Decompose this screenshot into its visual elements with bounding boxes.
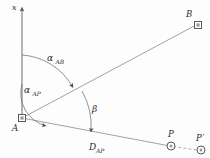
point-label-A: A <box>11 123 18 133</box>
angle-label-alpha-AB-symbol: α <box>47 53 53 63</box>
point-label-P-prime-base: P <box>195 133 202 143</box>
point-marker-P <box>167 142 175 150</box>
point-label-B: B <box>185 9 192 19</box>
distance-label-D-AP-subscript: AP <box>95 147 105 154</box>
point-label-P: P <box>167 129 174 139</box>
angle-label-alpha-AP-symbol: α <box>24 85 30 95</box>
figure-background <box>0 0 210 158</box>
angle-label-alpha-AP-subscript: AP <box>32 90 42 97</box>
point-marker-A <box>19 115 26 122</box>
point-marker-P-prime <box>197 146 205 154</box>
geometry-figure: x A B P P ′ α AB α AP β D AP <box>0 0 210 158</box>
point-marker-B <box>195 22 202 29</box>
diagram-canvas: x A B P P ′ α AB α AP β D AP <box>0 0 210 158</box>
x-axis-label: x <box>12 3 17 12</box>
distance-label-D-AP-symbol: D <box>88 142 96 152</box>
angle-label-alpha-AB-subscript: AB <box>55 58 65 65</box>
angle-label-beta: β <box>91 104 97 114</box>
point-label-P-prime: P ′ <box>195 133 205 143</box>
point-label-P-prime-mark: ′ <box>203 133 205 143</box>
